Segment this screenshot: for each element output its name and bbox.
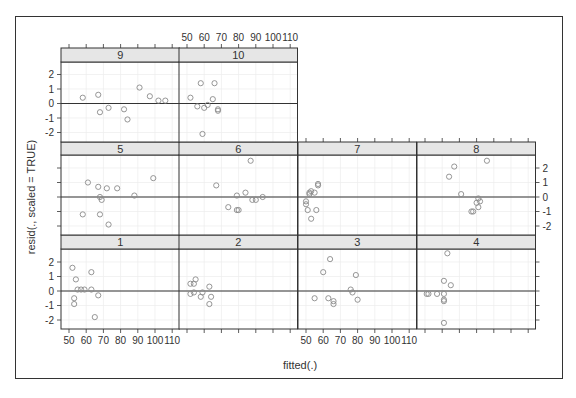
strip-label: 10 (232, 49, 244, 61)
strip-label: 2 (235, 236, 241, 248)
y-tick-label: -2 (45, 315, 54, 326)
x-tick-label: 90 (250, 32, 262, 43)
x-tick-label: 60 (318, 335, 330, 346)
x-tick-label: 110 (401, 335, 417, 346)
y-tick-label: 0 (543, 192, 549, 203)
panel-8: 8 (417, 142, 536, 235)
y-tick-label: 0 (48, 286, 54, 297)
strip-label: 7 (354, 143, 360, 155)
panel-3: 3 (298, 235, 417, 329)
x-tick-label: 50 (181, 32, 193, 43)
x-tick-label: 80 (115, 335, 127, 346)
strip-label: 1 (117, 236, 123, 248)
x-tick-label: 60 (81, 335, 93, 346)
x-tick-label: 100 (265, 32, 282, 43)
panel-1: 1 (61, 235, 180, 329)
y-tick-label: 1 (48, 84, 54, 95)
y-tick-label: -1 (45, 300, 54, 311)
x-tick-label: 90 (369, 335, 381, 346)
y-tick-label: -1 (543, 206, 552, 217)
y-axis-title: resid(., scaled = TRUE) (25, 140, 37, 254)
y-tick-label: 2 (543, 163, 549, 174)
y-tick-label: 0 (48, 98, 54, 109)
x-tick-label: 110 (164, 335, 180, 346)
x-tick-label: 100 (147, 335, 164, 346)
strip-label: 4 (473, 236, 479, 248)
y-tick-label: -1 (45, 113, 54, 124)
strip-label: 9 (117, 49, 123, 61)
strip-label: 5 (117, 143, 123, 155)
x-tick-label: 70 (335, 335, 347, 346)
x-tick-label: 60 (199, 32, 211, 43)
x-tick-label: 110 (282, 32, 298, 43)
y-tick-label: 2 (48, 257, 54, 268)
x-tick-label: 50 (63, 335, 75, 346)
panel-5: 5 (61, 142, 180, 235)
x-tick-label: 80 (352, 335, 364, 346)
x-axis-title: fitted(.) (283, 359, 317, 371)
strip-label: 8 (473, 143, 479, 155)
x-tick-label: 80 (233, 32, 245, 43)
strip-label: 6 (235, 143, 241, 155)
y-tick-label: 1 (48, 271, 54, 282)
x-tick-label: 70 (216, 32, 228, 43)
x-tick-label: 50 (300, 335, 312, 346)
y-tick-label: -2 (543, 221, 552, 232)
panel-7: 7 (298, 142, 417, 235)
panel-2: 2 (179, 235, 298, 329)
panel-10: 10 (179, 48, 298, 142)
y-tick-label: 2 (48, 69, 54, 80)
lattice-scatter-plot: 1234567891050607080901001105060708090100… (0, 0, 576, 398)
x-tick-label: 90 (132, 335, 144, 346)
x-tick-label: 70 (98, 335, 110, 346)
x-tick-label: 100 (384, 335, 401, 346)
strip-label: 3 (354, 236, 360, 248)
y-tick-label: 1 (543, 177, 549, 188)
y-tick-label: -2 (45, 127, 54, 138)
panel-4: 4 (417, 235, 536, 329)
panel-6: 6 (179, 142, 298, 235)
panel-9: 9 (61, 48, 180, 142)
